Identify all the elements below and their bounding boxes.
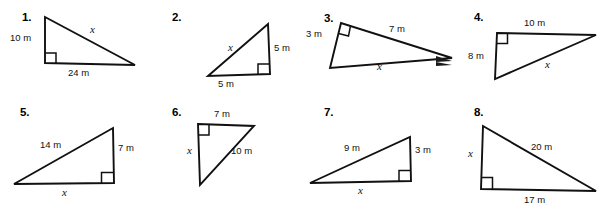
worksheet-canvas: 1. 10 m 24 m x 2. 5 m 5 m x 3. 3 m 7 m x… [0, 0, 606, 223]
label-8-leg-horizontal: 17 m [524, 195, 545, 205]
triangle-figure-8 [0, 0, 606, 223]
label-8-leg-vertical: x [468, 148, 473, 159]
label-8-hypotenuse: 20 m [531, 142, 552, 152]
